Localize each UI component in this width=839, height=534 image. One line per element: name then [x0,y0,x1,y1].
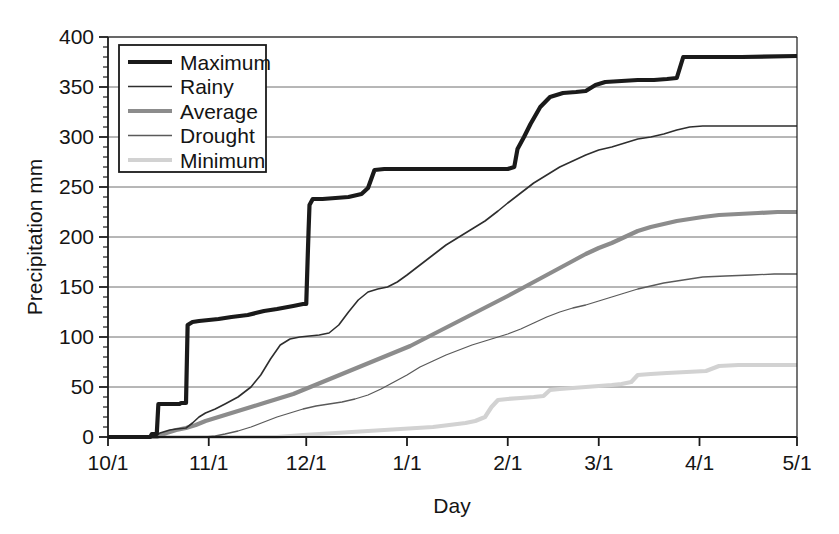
x-tick-label: 5/1 [782,451,811,474]
legend-label-rainy: Rainy [180,75,234,98]
x-tick-label: 2/1 [493,451,522,474]
chart-canvas: 050100150200250300350400 10/111/112/11/1… [0,0,839,534]
y-tick-label: 250 [59,175,94,198]
x-tick-label: 12/1 [286,451,327,474]
x-axis-title: Day [433,494,471,517]
y-tick-label: 100 [59,325,94,348]
x-tick-label: 4/1 [685,451,714,474]
y-tick-label: 0 [82,425,94,448]
legend-label-maximum: Maximum [180,51,271,74]
y-tick-label: 300 [59,125,94,148]
legend-label-drought: Drought [180,124,255,147]
y-axis-title: Precipitation mm [23,159,46,315]
x-tick-label: 11/1 [189,451,228,474]
y-tick-label: 200 [59,225,94,248]
precipitation-chart-figure: 050100150200250300350400 10/111/112/11/1… [0,0,839,534]
legend-label-average: Average [180,100,258,123]
y-tick-label: 50 [71,375,94,398]
y-tick-label: 350 [59,75,94,98]
x-tick-label: 3/1 [584,451,613,474]
legend-label-minimum: Minimum [180,149,265,172]
y-tick-label: 400 [59,25,94,48]
x-tick-label: 10/1 [88,451,129,474]
y-tick-label: 150 [59,275,94,298]
x-tick-label: 1/1 [392,451,421,474]
chart-legend: MaximumRainyAverageDroughtMinimum [119,45,271,172]
